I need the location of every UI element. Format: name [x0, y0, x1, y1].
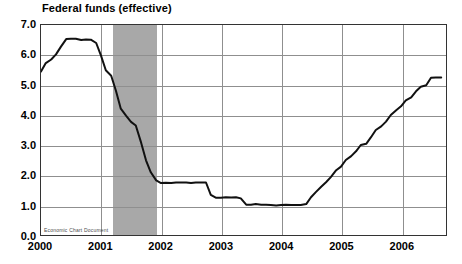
x-axis-tick-label: 2001: [88, 240, 112, 252]
chart-container: Federal funds (effective) Economic Chart…: [0, 0, 462, 264]
y-axis-tick-label: 4.0: [0, 109, 36, 121]
x-axis-tick-label: 2004: [269, 240, 293, 252]
y-axis-tick-label: 5.0: [0, 79, 36, 91]
x-axis-tick-label: 2000: [28, 240, 52, 252]
x-axis-tick-label: 2003: [209, 240, 233, 252]
y-axis-tick-label: 6.0: [0, 48, 36, 60]
axis-labels-layer: 7.06.05.04.03.02.01.00.02000200120022003…: [0, 0, 462, 264]
y-axis-tick-label: 1.0: [0, 200, 36, 212]
y-axis-tick-label: 7.0: [0, 18, 36, 30]
x-axis-tick-label: 2005: [329, 240, 353, 252]
y-axis-tick-label: 3.0: [0, 139, 36, 151]
y-axis-tick-label: 2.0: [0, 169, 36, 181]
x-axis-tick-label: 2002: [148, 240, 172, 252]
x-axis-tick-label: 2006: [390, 240, 414, 252]
